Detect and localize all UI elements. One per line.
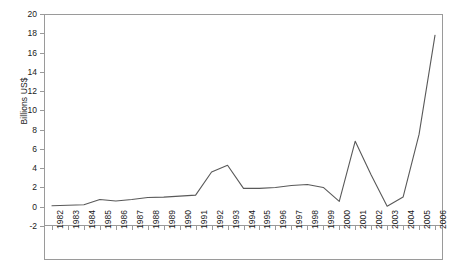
x-tick-mark (275, 226, 276, 230)
x-tick-mark (419, 226, 420, 230)
x-tick-mark (403, 226, 404, 230)
y-tick-label: 6 (11, 145, 37, 154)
y-tick-mark (40, 226, 44, 227)
y-tick-label: -2 (11, 222, 37, 231)
y-tick-label: 20 (11, 10, 37, 19)
x-tick-mark (244, 226, 245, 230)
y-tick-label: 16 (11, 49, 37, 58)
x-tick-mark (180, 226, 181, 230)
x-tick-mark (435, 226, 436, 230)
x-tick-mark (291, 226, 292, 230)
y-tick-label: 14 (11, 68, 37, 77)
x-label-box (44, 226, 443, 260)
x-tick-mark (132, 226, 133, 230)
x-tick-mark (339, 226, 340, 230)
y-tick-label: 10 (11, 106, 37, 115)
x-tick-mark (259, 226, 260, 230)
x-tick-mark (355, 226, 356, 230)
x-tick-mark (84, 226, 85, 230)
x-tick-mark (371, 226, 372, 230)
x-tick-mark (387, 226, 388, 230)
x-tick-mark (164, 226, 165, 230)
x-tick-mark (116, 226, 117, 230)
y-axis-title: Billions US$ (19, 41, 29, 161)
x-tick-mark (148, 226, 149, 230)
x-tick-mark (100, 226, 101, 230)
series-line (52, 35, 435, 206)
y-tick-label: 18 (11, 29, 37, 38)
y-tick-label: 2 (11, 183, 37, 192)
line-chart: Billions US$ 20181614121086420-2 1982198… (0, 0, 460, 278)
y-tick-label: 0 (11, 203, 37, 212)
x-tick-mark (323, 226, 324, 230)
x-tick-mark (307, 226, 308, 230)
y-tick-label: 4 (11, 164, 37, 173)
x-tick-mark (196, 226, 197, 230)
y-tick-label: 12 (11, 87, 37, 96)
x-tick-mark (228, 226, 229, 230)
x-tick-mark (52, 226, 53, 230)
x-tick-mark (212, 226, 213, 230)
series-line-group (44, 14, 443, 226)
x-tick-mark (68, 226, 69, 230)
y-tick-label: 8 (11, 126, 37, 135)
